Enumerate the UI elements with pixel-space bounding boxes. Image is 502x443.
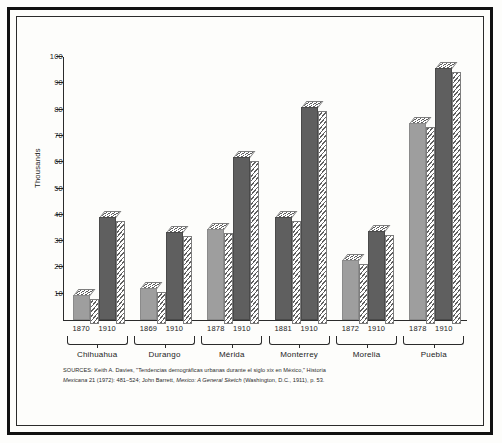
y-tick: 10 — [63, 293, 64, 294]
x-tick-label-monterrey-1910: 1910 — [295, 324, 324, 333]
group-label-mérida: Mérida — [201, 350, 262, 359]
x-tick-label-monterrey-1881: 1881 — [269, 324, 298, 333]
bar-front-face — [301, 107, 318, 320]
bar-front-face — [409, 123, 426, 320]
bar-front-face — [342, 260, 359, 320]
bar-side-face — [318, 111, 327, 324]
bar-side-face — [224, 233, 233, 324]
group-label-puebla: Puebla — [403, 350, 464, 359]
bar-side-face — [359, 264, 368, 324]
source-citation-mid: 21 (1972): 481–524; John Barrett, — [87, 377, 176, 383]
group-brace-puebla — [403, 336, 464, 345]
group-brace-durango — [134, 336, 195, 345]
x-tick-label-morelia-1872: 1872 — [336, 324, 365, 333]
x-tick-label-chihuahua-1910: 1910 — [93, 324, 122, 333]
x-tick-label-mérida-1878: 1878 — [201, 324, 230, 333]
y-axis-label: Thousands — [33, 148, 42, 188]
x-tick-label-durango-1910: 1910 — [160, 324, 189, 333]
y-tick: 30 — [63, 240, 64, 241]
bar-side-face — [292, 221, 301, 324]
bar-monterrey-1910 — [301, 107, 318, 320]
y-tick-label: 20 — [54, 262, 63, 271]
y-tick-label: 40 — [54, 209, 63, 218]
y-tick: 20 — [63, 266, 64, 267]
bar-durango-1910 — [166, 232, 183, 320]
y-tick: 70 — [63, 135, 64, 136]
y-tick: 40 — [63, 214, 64, 215]
bar-front-face — [233, 157, 250, 320]
bar-front-face — [368, 231, 385, 320]
group-brace-morelia — [336, 336, 397, 345]
figure-container: Thousands 102030405060708090100 18701910… — [0, 0, 502, 443]
y-tick-label: 70 — [54, 130, 63, 139]
group-brace-chihuahua — [67, 336, 128, 345]
y-tick: 60 — [63, 161, 64, 162]
y-tick-label: 90 — [54, 78, 63, 87]
bar-side-face — [116, 221, 125, 324]
source-journal-title: Mexicana — [63, 377, 87, 383]
x-tick-label-chihuahua-1870: 1870 — [67, 324, 96, 333]
bar-front-face — [140, 288, 157, 320]
bar-chihuahua-1910 — [99, 217, 116, 320]
bar-mérida-1878 — [207, 229, 224, 320]
y-tick: 90 — [63, 82, 64, 83]
bar-puebla-1910 — [435, 68, 452, 320]
bar-monterrey-1881 — [275, 217, 292, 320]
y-tick-label: 30 — [54, 236, 63, 245]
source-note: SOURCES: Keith A. Davies, "Tendencias de… — [63, 366, 463, 385]
y-tick-label: 60 — [54, 157, 63, 166]
x-tick-label-puebla-1910: 1910 — [429, 324, 458, 333]
bar-front-face — [207, 229, 224, 320]
bar-mérida-1910 — [233, 157, 250, 320]
plot-area: 102030405060708090100 — [63, 57, 467, 320]
source-line-2: Mexicana 21 (1972): 481–524; John Barret… — [63, 376, 463, 386]
group-brace-monterrey — [269, 336, 330, 345]
bar-chihuahua-1870 — [73, 295, 90, 320]
source-citation-end: (Washington, D.C., 1911), p. 53. — [242, 377, 325, 383]
bar-front-face — [99, 217, 116, 320]
bar-front-face — [73, 295, 90, 320]
bar-morelia-1872 — [342, 260, 359, 320]
bar-side-face — [90, 299, 99, 324]
bar-side-face — [250, 161, 259, 324]
source-line-1: SOURCES: Keith A. Davies, "Tendencias de… — [63, 366, 463, 376]
group-label-monterrey: Monterrey — [269, 350, 330, 359]
bar-side-face — [452, 72, 461, 324]
bar-durango-1869 — [140, 288, 157, 320]
x-tick-label-morelia-1910: 1910 — [362, 324, 391, 333]
group-label-durango: Durango — [134, 350, 195, 359]
bar-morelia-1910 — [368, 231, 385, 320]
y-tick-label: 10 — [54, 288, 63, 297]
group-brace-mérida — [201, 336, 262, 345]
bar-front-face — [275, 217, 292, 320]
y-tick: 50 — [63, 188, 64, 189]
x-tick-label-durango-1869: 1869 — [134, 324, 163, 333]
y-tick-label: 80 — [54, 104, 63, 113]
bar-puebla-1878 — [409, 123, 426, 320]
bar-side-face — [157, 292, 166, 324]
x-tick-label-puebla-1878: 1878 — [403, 324, 432, 333]
bar-side-face — [385, 235, 394, 324]
y-tick-label: 100 — [50, 52, 63, 61]
group-label-morelia: Morelia — [336, 350, 397, 359]
x-tick-label-mérida-1910: 1910 — [227, 324, 256, 333]
bar-side-face — [426, 127, 435, 324]
bar-front-face — [435, 68, 452, 320]
bar-side-face — [183, 236, 192, 324]
y-tick-label: 50 — [54, 183, 63, 192]
y-tick: 100 — [63, 56, 64, 57]
source-book-title: Mexico: A General Sketch — [176, 377, 241, 383]
group-label-chihuahua: Chihuahua — [67, 350, 128, 359]
y-tick: 80 — [63, 109, 64, 110]
bar-front-face — [166, 232, 183, 320]
